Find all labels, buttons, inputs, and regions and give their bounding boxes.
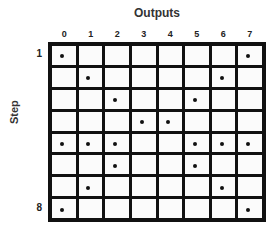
grid-cell-r7-c4	[159, 177, 183, 196]
grid-cell-r1-c3	[132, 46, 156, 65]
active-dot-icon	[220, 76, 224, 80]
active-dot-icon	[140, 120, 144, 124]
column-label-4: 4	[157, 28, 184, 40]
column-label-1: 1	[78, 28, 105, 40]
active-dot-icon	[60, 142, 64, 146]
grid-cell-r2-c2	[105, 68, 129, 87]
column-labels: 0 1 2 3 4 5 6 7	[48, 28, 266, 40]
grid-cell-r7-c0	[52, 177, 76, 196]
step-output-grid	[48, 42, 266, 222]
grid-cell-r4-c6	[212, 112, 236, 131]
grid-cell-r8-c6	[212, 199, 236, 218]
column-label-5: 5	[184, 28, 211, 40]
grid-cell-r3-c2	[105, 90, 129, 109]
column-label-7: 7	[237, 28, 264, 40]
grid-cell-r2-c6	[212, 68, 236, 87]
grid-cell-r5-c6	[212, 134, 236, 153]
grid-cell-r5-c5	[185, 134, 209, 153]
active-dot-icon	[60, 54, 64, 58]
grid-cell-r6-c5	[185, 155, 209, 174]
grid-cell-r6-c0	[52, 155, 76, 174]
grid-cell-r6-c7	[238, 155, 262, 174]
row-label-last: 8	[28, 202, 42, 213]
grid-cell-r4-c0	[52, 112, 76, 131]
grid-cell-r1-c7	[238, 46, 262, 65]
grid-cell-r8-c1	[79, 199, 103, 218]
active-dot-icon	[86, 186, 90, 190]
grid-cell-r1-c1	[79, 46, 103, 65]
grid-cell-r5-c4	[159, 134, 183, 153]
active-dot-icon	[113, 164, 117, 168]
active-dot-icon	[246, 54, 250, 58]
active-dot-icon	[166, 120, 170, 124]
grid-cell-r1-c4	[159, 46, 183, 65]
grid-cell-r2-c7	[238, 68, 262, 87]
grid-cell-r3-c4	[159, 90, 183, 109]
grid-cell-r7-c6	[212, 177, 236, 196]
active-dot-icon	[86, 76, 90, 80]
grid-cell-r2-c1	[79, 68, 103, 87]
grid-cell-r3-c5	[185, 90, 209, 109]
grid-cell-r3-c6	[212, 90, 236, 109]
grid-cell-r5-c1	[79, 134, 103, 153]
grid-cell-r4-c5	[185, 112, 209, 131]
grid-cell-r7-c7	[238, 177, 262, 196]
grid-cell-r4-c7	[238, 112, 262, 131]
grid-cell-r4-c2	[105, 112, 129, 131]
grid-cell-r3-c1	[79, 90, 103, 109]
grid-cell-r2-c4	[159, 68, 183, 87]
column-label-0: 0	[51, 28, 78, 40]
grid-cell-r6-c2	[105, 155, 129, 174]
step-axis-label: Step	[8, 100, 20, 124]
grid-cell-r5-c7	[238, 134, 262, 153]
active-dot-icon	[220, 142, 224, 146]
grid-cell-r7-c2	[105, 177, 129, 196]
grid-cell-r8-c2	[105, 199, 129, 218]
grid-cell-r8-c5	[185, 199, 209, 218]
grid-cell-r1-c6	[212, 46, 236, 65]
grid-cell-r5-c0	[52, 134, 76, 153]
grid-cell-r3-c7	[238, 90, 262, 109]
grid-cell-r5-c3	[132, 134, 156, 153]
grid-cell-r2-c5	[185, 68, 209, 87]
grid-cell-r2-c0	[52, 68, 76, 87]
grid-cell-r4-c1	[79, 112, 103, 131]
outputs-axis-title: Outputs	[48, 6, 266, 20]
grid-cell-r8-c7	[238, 199, 262, 218]
grid-cell-r1-c5	[185, 46, 209, 65]
column-label-2: 2	[104, 28, 131, 40]
active-dot-icon	[220, 186, 224, 190]
active-dot-icon	[193, 142, 197, 146]
active-dot-icon	[246, 142, 250, 146]
grid-cell-r8-c4	[159, 199, 183, 218]
grid-cell-r6-c1	[79, 155, 103, 174]
grid-cell-r6-c3	[132, 155, 156, 174]
grid-cell-r4-c3	[132, 112, 156, 131]
grid-cell-r7-c5	[185, 177, 209, 196]
grid-cell-r7-c1	[79, 177, 103, 196]
active-dot-icon	[193, 98, 197, 102]
grid-cell-r3-c3	[132, 90, 156, 109]
row-label-first: 1	[28, 48, 42, 59]
active-dot-icon	[193, 164, 197, 168]
grid-cell-r8-c3	[132, 199, 156, 218]
active-dot-icon	[86, 142, 90, 146]
grid-cell-r6-c6	[212, 155, 236, 174]
active-dot-icon	[246, 208, 250, 212]
active-dot-icon	[60, 208, 64, 212]
grid-cell-r3-c0	[52, 90, 76, 109]
grid-cell-r5-c2	[105, 134, 129, 153]
grid-cell-r4-c4	[159, 112, 183, 131]
column-label-6: 6	[210, 28, 237, 40]
grid-cell-r8-c0	[52, 199, 76, 218]
grid-cell-r7-c3	[132, 177, 156, 196]
active-dot-icon	[113, 98, 117, 102]
grid-cell-r6-c4	[159, 155, 183, 174]
active-dot-icon	[113, 142, 117, 146]
column-label-3: 3	[131, 28, 158, 40]
grid-cell-r1-c2	[105, 46, 129, 65]
grid-cell-r1-c0	[52, 46, 76, 65]
grid-cell-r2-c3	[132, 68, 156, 87]
